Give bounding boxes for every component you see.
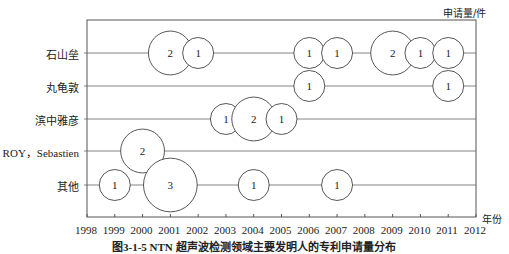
- bubble-value: 2: [140, 145, 146, 157]
- bubble-value: 1: [418, 47, 424, 59]
- x-tick-label: 2006: [297, 224, 319, 236]
- bubble-value: 1: [251, 179, 257, 191]
- x-tick-label: 2000: [131, 224, 153, 236]
- series-0: 2111211: [148, 31, 463, 75]
- x-axis-title: 年份: [482, 211, 502, 226]
- x-tick-label: 2009: [381, 224, 403, 236]
- bubble-value: 1: [223, 113, 229, 125]
- x-tick-label: 1998: [75, 224, 97, 236]
- bubble-value: 3: [168, 179, 174, 191]
- bubble-value: 1: [307, 47, 313, 59]
- bubble-value: 2: [390, 47, 396, 59]
- figure-caption: 图3-1-5 NTN 超声波检测领域主要发明人的专利申请量分布: [112, 238, 396, 254]
- y-axis-label: 滨中雅彦: [0, 112, 79, 128]
- y-axis-label: 丸龟敦: [0, 79, 79, 95]
- bubble-value: 1: [334, 179, 340, 191]
- x-tick-label: 2001: [158, 224, 180, 236]
- bubble-value: 1: [195, 47, 201, 59]
- bubble-value: 1: [445, 80, 451, 92]
- y-axis-label: ROY，Sebastien: [0, 144, 79, 160]
- bubble-value: 2: [251, 113, 257, 125]
- x-tick-label: 2003: [214, 224, 236, 236]
- bubble-value: 1: [279, 113, 285, 125]
- x-tick-label: 2004: [242, 224, 264, 236]
- x-tick-label: 2011: [436, 224, 458, 236]
- bubble-value: 2: [168, 47, 174, 59]
- unit-label: 申请量/件: [443, 5, 486, 20]
- x-tick-label: 1999: [103, 224, 125, 236]
- x-tick-label: 2002: [186, 224, 208, 236]
- x-tick-label: 2008: [353, 224, 375, 236]
- bubble-value: 1: [445, 47, 451, 59]
- bubble-value: 1: [307, 80, 313, 92]
- y-axis-label: 石山垒: [0, 46, 79, 62]
- bubble-value: 1: [334, 47, 340, 59]
- x-tick-label: 2005: [270, 224, 292, 236]
- x-tick-label: 2007: [325, 224, 347, 236]
- y-axis-label: 其他: [0, 178, 79, 194]
- bubble-value: 1: [112, 179, 118, 191]
- x-tick-label: 2010: [408, 224, 430, 236]
- series-2: 121: [210, 97, 297, 141]
